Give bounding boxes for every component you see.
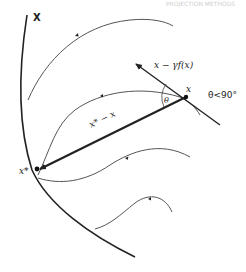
variational-inequality-diagram: PROJECTION METHODS X x* x x* − x x − γf(…: [0, 0, 246, 272]
label-theta: θ: [164, 96, 169, 105]
point-x: [184, 95, 188, 99]
trajectory-curve-4: [95, 197, 172, 229]
point-x-star: [35, 167, 40, 172]
trajectory-arrow-1: [75, 33, 79, 37]
label-angle-condition: θ<90°: [208, 90, 237, 100]
label-gradient-step: x − γf(x): [154, 60, 194, 70]
header-text: PROJECTION METHODS: [166, 0, 235, 8]
label-set-x: X: [33, 12, 41, 23]
label-point-x: x: [186, 84, 191, 94]
trajectory-curve-2: [38, 91, 200, 175]
label-direction: x* − x: [87, 109, 116, 130]
direction-vector-line: [40, 97, 186, 169]
trajectory-arrow-3: [125, 157, 129, 161]
trajectory-curve-3: [38, 149, 190, 182]
trajectory-arrow-4: [148, 197, 151, 201]
set-boundary-curve: [21, 15, 135, 257]
trajectory-curve-1: [28, 19, 173, 100]
label-optimum: x*: [19, 166, 29, 176]
